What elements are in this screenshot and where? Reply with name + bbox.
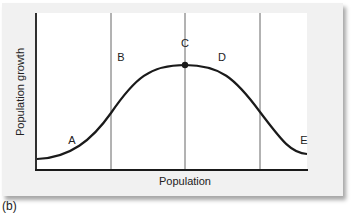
label-a: A xyxy=(68,134,76,146)
label-b: B xyxy=(117,51,124,63)
label-e: E xyxy=(300,134,307,146)
label-c: C xyxy=(181,37,189,49)
figure-label: (b) xyxy=(2,199,17,213)
peak-point xyxy=(182,62,188,68)
y-axis-title: Population growth xyxy=(14,48,26,136)
population-growth-chart: A B C D E Population Population growth xyxy=(0,0,364,215)
x-axis-title: Population xyxy=(159,175,211,187)
label-d: D xyxy=(218,51,226,63)
